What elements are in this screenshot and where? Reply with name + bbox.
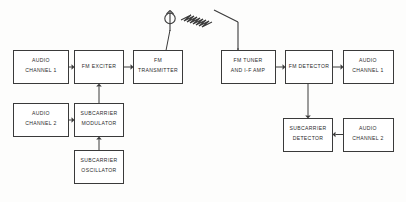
wire-detector-to-subcarrier-detector [305,84,311,119]
radio-wave-icon [181,15,212,27]
block-audio-channel-2-rx: AUDIO CHANNEL 2 [344,119,394,152]
block-label-line2: CHANNEL 2 [352,135,384,141]
block-label-line1: AUDIO [359,57,377,63]
block-label-line2: CHANNEL 1 [25,67,57,73]
block-label-line2: OSCILLATOR [81,167,116,173]
wire-oscillator-to-modulator [96,137,102,151]
block-label-line1: SUBCARRIER [81,157,118,163]
block-subcarrier-detector: SUBCARRIER DETECTOR [284,119,333,152]
wire-audio1-to-exciter [69,64,75,70]
block-audio-channel-1-tx: AUDIO CHANNEL 1 [14,51,69,84]
block-fm-tuner-if-amp: FM TUNER AND I-F AMP [222,51,276,84]
block-label-line2: AND I-F AMP [231,67,266,73]
block-label-line1: SUBCARRIER [81,110,118,116]
diagram-canvas: AUDIO CHANNEL 1 FM EXCITER FM TRANSMITTE… [0,0,406,202]
block-audio-channel-2-tx: AUDIO CHANNEL 2 [14,104,69,137]
block-label-line1: FM [154,57,162,63]
block-label-line1: FM TUNER [233,57,262,63]
wire-modulator-to-exciter [96,84,102,104]
block-label-line2: CHANNEL 1 [352,67,384,73]
block-label-line2: DETECTOR [293,135,324,141]
wire-tuner-to-detector [276,64,286,70]
block-subcarrier-oscillator: SUBCARRIER OSCILLATOR [75,151,124,184]
wire-transmitter-to-antenna [166,30,170,51]
block-label-line1: AUDIO [359,125,377,131]
block-label-line1: SUBCARRIER [290,125,327,131]
wire-subcarrier-detector-to-audio2 [333,132,344,138]
block-fm-transmitter: FM TRANSMITTER [134,51,183,84]
block-fm-detector: FM DETECTOR [286,51,333,84]
block-label-line1: AUDIO [32,57,50,63]
fm-block-diagram: AUDIO CHANNEL 1 FM EXCITER FM TRANSMITTE… [0,0,406,202]
block-fm-exciter: FM EXCITER [75,51,124,84]
block-label-line1: FM DETECTOR [289,63,330,69]
receive-antenna-icon [214,10,238,51]
block-subcarrier-modulator: SUBCARRIER MODULATOR [75,104,124,137]
transmit-antenna-icon [165,11,175,32]
block-label-line2: MODULATOR [81,120,116,126]
block-label-line1: FM EXCITER [82,63,116,69]
block-label-line1: AUDIO [32,110,50,116]
block-audio-channel-1-rx: AUDIO CHANNEL 1 [344,51,394,84]
wire-detector-to-audio1 [333,64,344,70]
wire-audio2-to-modulator [69,117,75,123]
wire-exciter-to-transmitter [124,64,134,70]
block-label-line2: CHANNEL 2 [25,120,57,126]
block-label-line2: TRANSMITTER [138,67,178,73]
